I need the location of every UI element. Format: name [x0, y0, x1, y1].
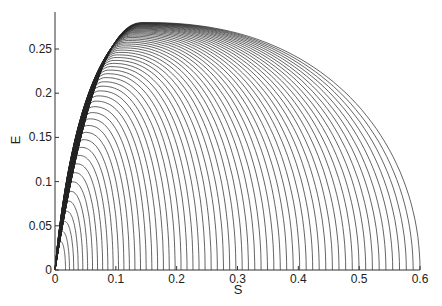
trajectory-curve: [55, 36, 287, 270]
trajectory-curve: [55, 58, 217, 271]
y-tick-label: 0: [45, 263, 52, 277]
x-tick-label: 0: [52, 272, 59, 286]
phase-plot: 00.10.20.30.40.50.6 00.050.10.150.20.25 …: [0, 0, 442, 306]
x-tick-label: 0.6: [412, 272, 429, 286]
y-tick-label: 0.05: [29, 219, 53, 233]
trajectory-curve: [55, 46, 248, 270]
trajectory-curve: [55, 29, 332, 270]
trajectory-curve: [55, 23, 413, 270]
trajectory-curve: [55, 70, 193, 270]
trajectory-curve: [55, 74, 187, 270]
y-tick-label: 0.1: [35, 175, 52, 189]
y-ticks: 00.050.10.150.20.25: [29, 42, 59, 277]
y-axis-label: E: [8, 135, 23, 144]
x-axis-label: S: [234, 282, 243, 297]
x-tick-label: 0.4: [290, 272, 307, 286]
trajectory-curve: [55, 33, 306, 270]
x-tick-label: 0.5: [351, 272, 368, 286]
x-tick-label: 0.2: [168, 272, 185, 286]
trajectory-curve: [55, 28, 346, 270]
chart-root: 00.10.20.30.40.50.6 00.050.10.150.20.25 …: [0, 0, 442, 306]
x-tick-label: 0.1: [107, 272, 124, 286]
trajectory-curves: [55, 23, 420, 271]
y-tick-label: 0.25: [29, 42, 53, 56]
trajectory-curve: [55, 32, 313, 270]
y-tick-label: 0.2: [35, 86, 52, 100]
y-tick-label: 0.15: [29, 130, 53, 144]
